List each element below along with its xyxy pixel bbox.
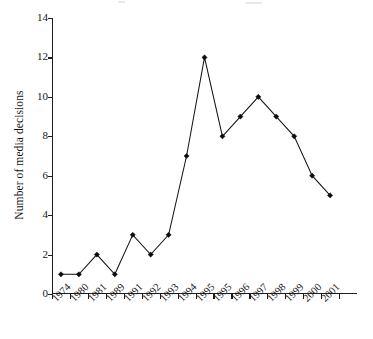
plot-area xyxy=(52,18,357,294)
scan-artifact xyxy=(246,2,262,4)
media-decisions-line-chart: Number of media decisions 02468101214 19… xyxy=(0,0,373,339)
y-axis-tick-label: 6 xyxy=(26,170,48,181)
y-axis-tick-label: 10 xyxy=(26,91,48,102)
series-marker xyxy=(202,55,207,60)
series-marker xyxy=(58,272,63,277)
series-polyline xyxy=(61,57,330,274)
y-axis-tick-label: 8 xyxy=(26,130,48,141)
y-axis-tick-label: 12 xyxy=(26,51,48,62)
scan-artifact xyxy=(118,1,125,3)
series-marker xyxy=(184,153,189,158)
y-axis-tick-labels: 02468101214 xyxy=(26,0,48,339)
y-axis-tick-label: 0 xyxy=(26,288,48,299)
y-axis-tick-label: 2 xyxy=(26,249,48,260)
series-markers xyxy=(58,55,332,277)
x-axis-tick-labels: 1974198019811989199119921993199419951995… xyxy=(52,296,373,339)
y-axis-tick-label: 4 xyxy=(26,209,48,220)
y-axis-tick-label: 14 xyxy=(26,12,48,23)
data-series xyxy=(52,18,357,294)
